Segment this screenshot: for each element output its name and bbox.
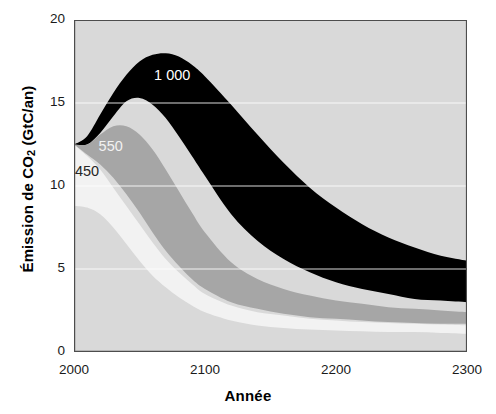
y-tick-label-20: 20	[25, 11, 65, 26]
y-tick-label-0: 0	[25, 343, 65, 358]
band-label-450: 450	[75, 163, 99, 179]
y-tick-label-10: 10	[25, 177, 65, 192]
y-tick-label-15: 15	[25, 94, 65, 109]
x-tick-label-2000: 2000	[44, 362, 104, 377]
x-axis-title: Année	[0, 387, 496, 404]
y-axis-title-subscript: 2	[25, 150, 37, 156]
y-axis-title-pre: Émission de CO	[19, 156, 36, 272]
x-tick-label-2100: 2100	[175, 362, 235, 377]
band-label-1000: 1 000	[154, 67, 190, 83]
x-tick-label-2300: 2300	[437, 362, 496, 377]
chart-figure: Émission de CO2 (GtC/an) Année 1 0005504…	[0, 0, 496, 414]
chart-svg: 1 000550450	[74, 20, 467, 352]
plot-area: 1 000550450	[74, 20, 467, 352]
band-label-550: 550	[99, 138, 123, 154]
y-tick-label-5: 5	[25, 260, 65, 275]
x-tick-label-2200: 2200	[306, 362, 366, 377]
